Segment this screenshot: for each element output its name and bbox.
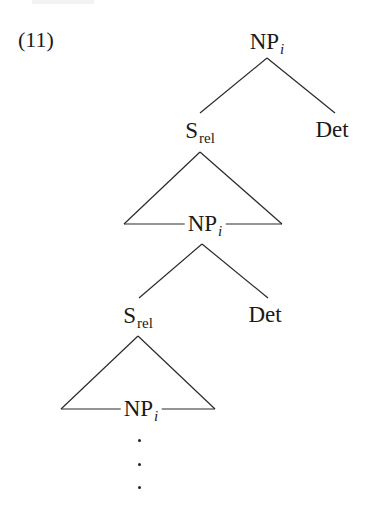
continuation-dot xyxy=(138,439,141,442)
edge-np1-srel1 xyxy=(200,58,267,113)
node-subscript: rel xyxy=(137,315,153,331)
edge-np1-det1 xyxy=(267,58,335,113)
node-np-top: NPi xyxy=(247,29,288,57)
node-np-middle: NPi xyxy=(185,211,226,239)
edge-np2-det2 xyxy=(202,244,268,298)
tree-edges xyxy=(0,0,373,515)
node-srel-1: Srel xyxy=(182,118,218,146)
edge-np2-srel2 xyxy=(139,244,202,298)
node-subscript: rel xyxy=(199,130,215,146)
node-subscript: i xyxy=(218,223,222,239)
node-det-1: Det xyxy=(312,117,351,143)
continuation-dot xyxy=(138,486,141,489)
node-label: Det xyxy=(248,302,281,327)
node-label: NP xyxy=(250,29,279,54)
continuation-dot xyxy=(138,463,141,466)
node-np-bottom: NPi xyxy=(121,396,162,424)
node-label: NP xyxy=(124,396,153,421)
node-label: S xyxy=(185,118,198,143)
node-label: NP xyxy=(188,211,217,236)
node-label: Det xyxy=(315,117,348,142)
node-subscript: i xyxy=(280,41,284,57)
node-det-2: Det xyxy=(245,302,284,328)
node-subscript: i xyxy=(154,408,158,424)
node-srel-2: Srel xyxy=(120,303,156,331)
node-label: S xyxy=(123,303,136,328)
